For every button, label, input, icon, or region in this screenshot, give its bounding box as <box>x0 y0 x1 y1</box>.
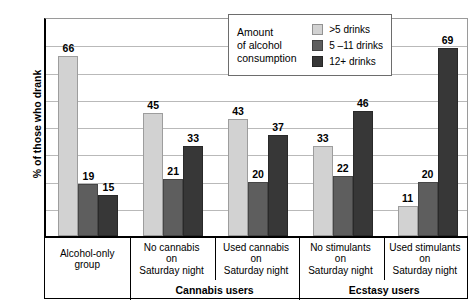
bar-value-label: 69 <box>442 35 454 46</box>
legend-title: Amountof alcoholconsumption <box>237 26 306 65</box>
legend-swatch-icon <box>312 40 323 51</box>
bars: 661915 <box>58 19 118 236</box>
super-category-divider <box>299 280 300 300</box>
category-divider <box>299 238 300 280</box>
category-row: Alcohol-onlygroupNo cannabisonSaturday n… <box>45 238 467 280</box>
bar[interactable]: 66 <box>58 18 78 236</box>
super-category-label: Ecstasy users <box>299 280 469 300</box>
legend-title-line: of alcohol <box>237 39 306 52</box>
bar-chart-figure: % of those who drank 01020304050607080 6… <box>0 0 476 307</box>
bar-fill <box>248 182 268 237</box>
bar-value-label: 66 <box>63 43 75 54</box>
legend-swatch-icon <box>312 56 323 67</box>
bar-fill <box>398 206 418 236</box>
super-category-divider <box>130 280 131 300</box>
bar-value-label: 45 <box>147 100 159 111</box>
bar[interactable]: 33 <box>183 18 203 236</box>
category-divider <box>130 238 131 280</box>
bar-value-label: 21 <box>167 166 179 177</box>
bar-fill <box>78 184 98 236</box>
bar-value-label: 20 <box>422 169 434 180</box>
category-label: Alcohol-onlygroup <box>45 238 129 280</box>
category-label-line: Saturday night <box>308 265 373 277</box>
category-label-line: Used stimulants <box>389 242 460 254</box>
category-label-line: group <box>60 259 114 271</box>
legend-item-label: 5 –11 drinks <box>329 40 383 51</box>
category-divider <box>215 238 216 280</box>
legend-item[interactable]: 12+ drinks <box>312 53 383 69</box>
category-label: Used stimulantsonSaturday night <box>383 238 467 280</box>
bar-value-label: 11 <box>402 193 413 204</box>
bar-fill <box>58 56 78 236</box>
legend: Amountof alcoholconsumption >5 drinks5 –… <box>228 14 392 76</box>
bar-fill <box>313 146 333 236</box>
bar-value-label: 43 <box>232 106 244 117</box>
category-divider <box>384 238 385 280</box>
legend-item[interactable]: 5 –11 drinks <box>312 37 383 53</box>
bars: 452133 <box>143 19 203 236</box>
bar-fill <box>98 195 118 236</box>
bar-fill <box>418 182 438 237</box>
category-label-box: Alcohol-onlygroupNo cannabisonSaturday n… <box>44 237 468 299</box>
bar-fill <box>228 119 248 236</box>
bar[interactable]: 69 <box>438 18 458 236</box>
category-label-line: on <box>308 253 373 265</box>
bar[interactable]: 20 <box>418 18 438 236</box>
bar-value-label: 46 <box>357 98 369 109</box>
bars: 112069 <box>398 19 458 236</box>
category-label: No cannabisonSaturday night <box>129 238 213 280</box>
category-label-line: Saturday night <box>389 265 460 277</box>
bar-group: 452133 <box>131 19 216 236</box>
bar-fill <box>143 113 163 236</box>
bar-fill <box>438 48 458 236</box>
category-label-line: Alcohol-only <box>60 248 114 260</box>
bar[interactable]: 11 <box>398 18 418 236</box>
bar-fill <box>268 135 288 236</box>
legend-item-label: 12+ drinks <box>329 56 375 67</box>
bar-fill <box>183 146 203 236</box>
legend-item-label: >5 drinks <box>329 24 370 35</box>
bar-fill <box>163 179 183 236</box>
bar-value-label: 33 <box>317 133 329 144</box>
bar[interactable]: 21 <box>163 18 183 236</box>
legend-title-line: consumption <box>237 52 306 65</box>
category-label-line: Saturday night <box>139 265 204 277</box>
bar-fill <box>333 176 353 236</box>
category-label-line: No cannabis <box>139 242 204 254</box>
category-label-line: Saturday night <box>223 265 289 277</box>
category-label-line: on <box>139 253 204 265</box>
bar[interactable]: 45 <box>143 18 163 236</box>
bar-value-label: 33 <box>187 133 199 144</box>
legend-items: >5 drinks5 –11 drinks12+ drinks <box>312 21 383 69</box>
category-label-line: on <box>223 253 289 265</box>
bar-value-label: 20 <box>252 169 264 180</box>
category-label-line: on <box>389 253 460 265</box>
bar-value-label: 19 <box>83 171 95 182</box>
category-label-line: Used cannabis <box>223 242 289 254</box>
bar[interactable]: 15 <box>98 18 118 236</box>
category-label: Used cannabisonSaturday night <box>214 238 298 280</box>
bar-group: 112069 <box>385 19 470 236</box>
bar-fill <box>353 111 373 236</box>
category-label: No stimulantsonSaturday night <box>298 238 382 280</box>
bar-value-label: 22 <box>337 163 349 174</box>
legend-item[interactable]: >5 drinks <box>312 21 383 37</box>
legend-swatch-icon <box>312 24 323 35</box>
bar-group: 661915 <box>46 19 131 236</box>
super-category-label: Cannabis users <box>130 280 300 300</box>
legend-title-line: Amount <box>237 26 306 39</box>
category-label-line: No stimulants <box>308 242 373 254</box>
super-category-row: Cannabis usersEcstasy users <box>45 280 467 300</box>
bar[interactable]: 19 <box>78 18 98 236</box>
bar-value-label: 37 <box>272 122 284 133</box>
bar-value-label: 15 <box>103 182 115 193</box>
